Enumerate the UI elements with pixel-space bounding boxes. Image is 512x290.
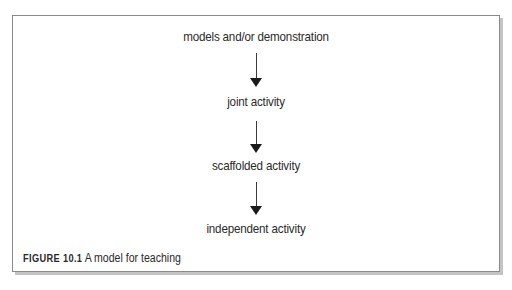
figure-number: FIGURE 10.1: [23, 252, 82, 264]
figure-frame: models and/or demonstration joint activi…: [12, 15, 500, 272]
step-independent-activity: independent activity: [47, 221, 465, 236]
figure-caption-text: A model for teaching: [82, 251, 181, 265]
figure-caption: FIGURE 10.1 A model for teaching: [23, 251, 181, 265]
step-joint-activity: joint activity: [47, 94, 465, 109]
arrow-down-icon: [250, 53, 262, 87]
step-scaffolded-activity: scaffolded activity: [47, 158, 465, 173]
arrow-down-icon: [250, 121, 262, 153]
arrow-down-icon: [250, 182, 262, 215]
step-models-demonstration: models and/or demonstration: [47, 29, 465, 44]
